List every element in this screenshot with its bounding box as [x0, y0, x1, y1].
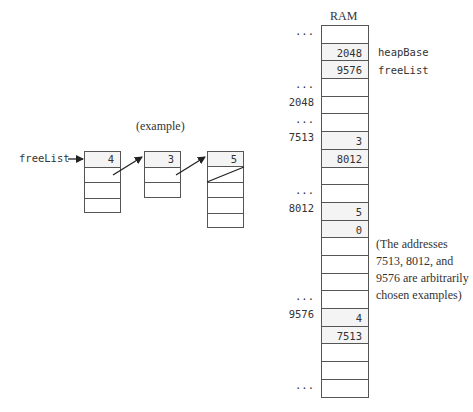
ram-cell — [322, 185, 368, 203]
ram-address-ellipsis: ... — [274, 184, 314, 196]
block-2-next-cell — [145, 168, 180, 184]
freelist-label: freeList — [378, 64, 429, 76]
ram-cell — [322, 380, 368, 398]
annotation-line: 9576 are arbitrarily — [376, 270, 469, 287]
ram-cell: 4 — [322, 309, 368, 327]
annotation-line: 7513, 8012, and — [376, 253, 453, 270]
ram-address-ellipsis: ... — [274, 25, 314, 37]
ram-cell — [322, 114, 368, 132]
block-3-null-cell — [208, 167, 243, 182]
ram-cell — [322, 97, 368, 115]
ram-cell — [322, 238, 368, 256]
ram-cell: 8012 — [322, 150, 368, 168]
example-caption: (example) — [136, 119, 185, 134]
free-block-3: 5 — [207, 151, 244, 228]
ram-cell — [322, 79, 368, 97]
ram-address-7513: 7513 — [274, 131, 314, 143]
ram-address-ellipsis: ... — [274, 78, 314, 90]
ram-cell: 3 — [322, 132, 368, 150]
ram-cell — [322, 26, 368, 44]
block-3-cell — [208, 214, 243, 229]
block-2-size-cell: 3 — [145, 152, 180, 168]
ram-title: RAM — [330, 9, 357, 24]
ram-cell — [322, 274, 368, 292]
block-1-next-cell — [85, 168, 120, 184]
heapbase-label: heapBase — [378, 46, 429, 58]
block-3-size-cell: 5 — [208, 152, 243, 167]
ram-cell — [322, 256, 368, 274]
ram-cell — [322, 168, 368, 186]
block-1-size-cell: 4 — [85, 152, 120, 168]
ram-cell-freelist: 9576 — [322, 61, 368, 79]
annotation-line: (The addresses — [376, 236, 448, 253]
freelist-pointer-label: freeList — [19, 152, 70, 164]
annotation-line: chosen examples) — [376, 287, 462, 304]
ram-cell — [322, 291, 368, 309]
free-block-2: 3 — [144, 151, 181, 198]
block-1-cell — [85, 183, 120, 199]
ram-address-ellipsis: ... — [274, 290, 314, 302]
ram-address-ellipsis: ... — [274, 379, 314, 391]
ram-address-8012: 8012 — [274, 202, 314, 214]
ram-cell: 5 — [322, 203, 368, 221]
ram-address-ellipsis: ... — [274, 113, 314, 125]
free-block-1: 4 — [84, 151, 121, 213]
ram-address-2048: 2048 — [274, 96, 314, 108]
ram-cell: 0 — [322, 221, 368, 239]
ram-cell-heapbase: 2048 — [322, 44, 368, 62]
block-1-cell — [85, 199, 120, 215]
ram-address-9576: 9576 — [274, 308, 314, 320]
ram-cell — [322, 344, 368, 362]
block-3-cell — [208, 198, 243, 213]
block-3-cell — [208, 183, 243, 198]
ram-cell: 7513 — [322, 327, 368, 345]
ram-column: 2048 9576 3 8012 5 0 4 7513 — [321, 25, 369, 398]
block-2-cell — [145, 183, 180, 199]
ram-cell — [322, 362, 368, 380]
